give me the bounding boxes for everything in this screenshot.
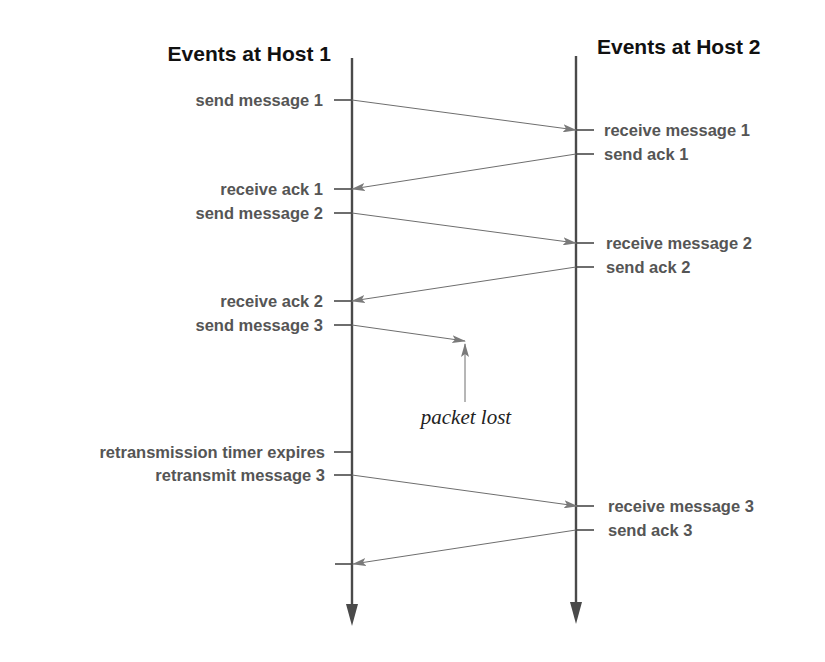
event-send-ack-2: send ack 2 (606, 258, 690, 276)
host1-event-labels: send message 1 receive ack 1 send messag… (99, 91, 325, 484)
host2-timeline (570, 56, 582, 624)
event-receive-message-3: receive message 3 (608, 497, 754, 515)
ack-1-arrow (352, 154, 576, 189)
message-3-retransmit-arrow (352, 475, 577, 506)
host2-event-labels: receive message 1 send ack 1 receive mes… (604, 121, 754, 539)
event-send-ack-1: send ack 1 (604, 145, 688, 163)
event-receive-ack-2: receive ack 2 (220, 292, 323, 310)
host2-title: Events at Host 2 (597, 35, 760, 58)
messages (352, 100, 577, 564)
ack-2-arrow (352, 267, 576, 301)
event-receive-message-1: receive message 1 (604, 121, 750, 139)
event-retransmit-message-3: retransmit message 3 (155, 466, 325, 484)
timeline-arrowhead-icon (346, 604, 358, 626)
event-send-message-3: send message 3 (196, 316, 324, 334)
message-1-arrow (352, 100, 576, 130)
event-receive-ack-1: receive ack 1 (220, 180, 323, 198)
host1-title: Events at Host 1 (168, 42, 332, 65)
host1-ticks (334, 100, 352, 564)
timeline-arrowhead-icon (570, 602, 582, 624)
host2-ticks (576, 130, 594, 530)
packet-lost-label: packet lost (419, 405, 513, 429)
event-receive-message-2: receive message 2 (606, 234, 752, 252)
event-send-ack-3: send ack 3 (608, 521, 692, 539)
sequence-diagram: Events at Host 1 Events at Host 2 send m… (0, 0, 825, 662)
packet-lost-annotation: packet lost (419, 344, 513, 429)
message-3-lost-arrow (352, 325, 465, 341)
host1-timeline (346, 58, 358, 626)
ack-3-arrow (353, 530, 576, 564)
event-retransmission-timer-expires: retransmission timer expires (99, 443, 325, 461)
message-2-arrow (352, 213, 576, 243)
event-send-message-2: send message 2 (196, 204, 324, 222)
event-send-message-1: send message 1 (196, 91, 324, 109)
